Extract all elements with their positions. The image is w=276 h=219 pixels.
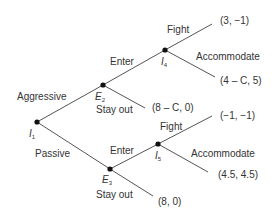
payoff-e3-stay-out: (8, 0) — [158, 196, 181, 207]
node-e2 — [100, 82, 105, 87]
payoff-e2-stay-out: (8 – C, 0) — [152, 102, 194, 113]
label-accommodate-top: Accommodate — [196, 51, 260, 62]
node-label-i4: I4 — [161, 56, 168, 68]
label-accommodate-bottom: Accommodate — [191, 148, 255, 159]
label-enter-top: Enter — [110, 56, 135, 67]
node-i5 — [155, 141, 160, 146]
label-stay-out-top: Stay out — [96, 104, 133, 115]
edge-passive — [37, 122, 110, 169]
payoff-i5-accommodate: (4.5, 4.5) — [218, 169, 258, 180]
label-aggressive: Aggressive — [17, 91, 67, 102]
label-fight-bottom: Fight — [160, 121, 182, 132]
node-e3 — [107, 166, 112, 171]
label-stay-out-bottom: Stay out — [96, 189, 133, 200]
payoff-i5-fight: (−1, −1) — [220, 110, 255, 121]
label-enter-bottom: Enter — [110, 145, 135, 156]
node-label-i5: I5 — [155, 150, 162, 162]
node-label-e2: E2 — [95, 91, 106, 103]
node-label-i1: I1 — [29, 128, 36, 140]
payoff-i4-accommodate: (4 – C, 5) — [220, 75, 262, 86]
payoff-i4-fight: (3, −1) — [220, 15, 249, 26]
node-label-e3: E3 — [102, 174, 113, 186]
node-i4 — [162, 47, 167, 52]
label-fight-top: Fight — [167, 24, 189, 35]
node-i1 — [34, 119, 39, 124]
label-passive: Passive — [35, 148, 70, 159]
game-tree: I1 E2 I4 E3 I5 Aggressive Passive Enter … — [0, 0, 276, 219]
